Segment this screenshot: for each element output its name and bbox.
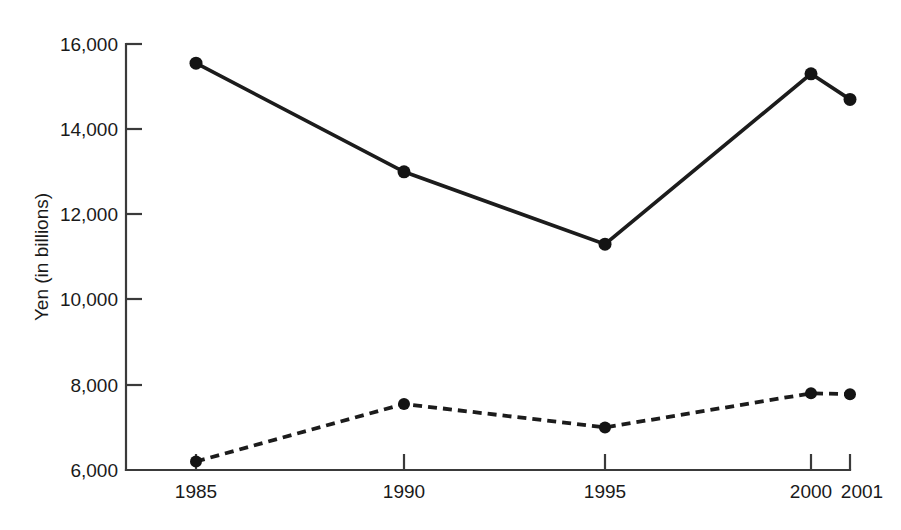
x-tick-label-1995: 1995 xyxy=(584,481,626,502)
y-tick-label-8000: 8,000 xyxy=(70,375,118,396)
y-axis-title: Yen (in billions) xyxy=(31,193,52,321)
x-tick-label-1985: 1985 xyxy=(175,481,217,502)
x-tick-marks xyxy=(196,454,850,470)
dashed-series-line xyxy=(196,393,850,461)
y-tick-label-16000: 16,000 xyxy=(60,34,118,55)
line-chart-figure: 16,000 14,000 12,000 10,000 8,000 6,000 … xyxy=(0,0,901,530)
data-point-marker xyxy=(805,67,818,80)
data-point-marker xyxy=(844,93,857,106)
y-tick-label-12000: 12,000 xyxy=(60,204,118,225)
y-tick-labels: 16,000 14,000 12,000 10,000 8,000 6,000 xyxy=(60,34,118,481)
x-tick-label-2000: 2000 xyxy=(790,481,832,502)
solid-series-line xyxy=(196,63,850,244)
y-tick-marks xyxy=(126,44,142,385)
x-tick-label-2001: 2001 xyxy=(841,481,883,502)
y-tick-label-14000: 14,000 xyxy=(60,119,118,140)
data-point-marker xyxy=(190,455,202,467)
data-point-marker xyxy=(599,238,612,251)
data-point-marker xyxy=(398,165,411,178)
chart-canvas: 16,000 14,000 12,000 10,000 8,000 6,000 … xyxy=(0,0,901,530)
data-point-marker xyxy=(844,388,856,400)
data-point-marker xyxy=(190,57,203,70)
solid-series-markers xyxy=(190,57,857,251)
x-tick-label-1990: 1990 xyxy=(383,481,425,502)
data-point-marker xyxy=(805,387,817,399)
data-point-marker xyxy=(599,421,611,433)
dashed-series-markers xyxy=(190,387,856,467)
y-tick-label-6000: 6,000 xyxy=(70,460,118,481)
y-tick-label-10000: 10,000 xyxy=(60,289,118,310)
x-tick-labels: 1985 1990 1995 2000 2001 xyxy=(175,481,883,502)
data-point-marker xyxy=(398,398,410,410)
